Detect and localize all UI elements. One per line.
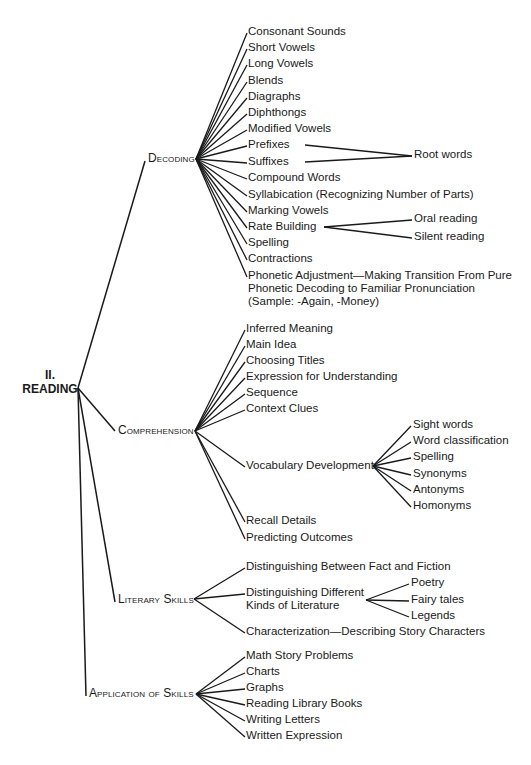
item-vocabulary-development: Vocabulary Development: [246, 459, 374, 472]
subitem-synonyms: Synonyms: [413, 467, 467, 480]
item-choosing-titles: Choosing Titles: [246, 354, 325, 367]
item-context-clues: Context Clues: [246, 402, 318, 415]
connector-line: [196, 694, 245, 737]
subitem-fairy-tales: Fairy tales: [411, 593, 464, 606]
subitem-silent-reading: Silent reading: [414, 230, 484, 243]
connector-line: [195, 346, 245, 431]
item-diphthongs: Diphthongs: [248, 106, 306, 119]
connector-line: [195, 431, 245, 522]
connector-line: [196, 159, 247, 260]
connector-line: [78, 388, 115, 431]
item-syllabication-recognizing-number-of-part: Syllabication (Recognizing Number of Par…: [248, 188, 474, 201]
item-modified-vowels: Modified Vowels: [248, 122, 331, 135]
item-recall-details: Recall Details: [246, 514, 316, 527]
subitem-spelling: Spelling: [413, 450, 454, 463]
connector-line: [196, 49, 247, 159]
connector-line: [196, 159, 247, 244]
connector-line: [78, 388, 86, 696]
item-prefixes: Prefixes: [248, 138, 290, 151]
item-writing-letters: Writing Letters: [246, 713, 320, 726]
category-comprehension: Comprehension: [118, 424, 194, 437]
item-inferred-meaning: Inferred Meaning: [246, 322, 333, 335]
connector-line: [324, 220, 412, 227]
item-expression-for-understanding: Expression for Understanding: [246, 370, 398, 383]
connector-line: [195, 431, 245, 539]
subitem-poetry: Poetry: [411, 576, 444, 589]
connector-line: [305, 145, 412, 156]
subitem-sight-words: Sight words: [413, 418, 473, 431]
item-phonetic-adjustment-making-transition-fr: Phonetic Adjustment—Making Transition Fr…: [248, 269, 512, 308]
item-long-vowels: Long Vowels: [248, 57, 313, 70]
item-main-idea: Main Idea: [246, 338, 297, 351]
item-distinguishing-different: Distinguishing Different Kinds of Litera…: [246, 586, 364, 612]
connector-line: [195, 431, 245, 467]
connector-line: [196, 98, 247, 159]
connector-line: [196, 694, 245, 721]
connector-line: [194, 599, 245, 633]
connector-line: [305, 156, 412, 162]
item-characterization-describing-story-charac: Characterization—Describing Story Charac…: [246, 625, 485, 638]
subitem-oral-reading: Oral reading: [414, 212, 477, 225]
item-consonant-sounds: Consonant Sounds: [248, 25, 346, 38]
root-title: READING: [22, 382, 78, 396]
category-literary-skills: Literary Skills: [118, 593, 194, 606]
connector-line: [366, 600, 409, 601]
item-compound-words: Compound Words: [248, 171, 340, 184]
category-application-of-skills: Application of Skills: [89, 687, 194, 700]
connector-line: [78, 161, 145, 388]
item-math-story-problems: Math Story Problems: [246, 649, 353, 662]
item-predicting-outcomes: Predicting Outcomes: [246, 531, 353, 544]
subitem-antonyms: Antonyms: [413, 483, 464, 496]
item-reading-library-books: Reading Library Books: [246, 697, 362, 710]
connector-line: [366, 584, 409, 600]
subitem-homonyms: Homonyms: [413, 499, 471, 512]
item-suffixes: Suffixes: [248, 155, 289, 168]
item-sequence: Sequence: [246, 386, 298, 399]
item-charts: Charts: [246, 665, 280, 678]
connector-line: [196, 694, 245, 705]
item-spelling: Spelling: [248, 236, 289, 249]
subitem-legends: Legends: [411, 609, 455, 622]
subitem-word-classification: Word classification: [413, 434, 509, 447]
connector-line: [196, 33, 247, 159]
item-short-vowels: Short Vowels: [248, 41, 315, 54]
connector-line: [195, 378, 245, 431]
connector-line: [196, 159, 247, 212]
connector-line: [366, 600, 409, 617]
root-number: II.: [22, 368, 78, 382]
item-diagraphs: Diagraphs: [248, 90, 300, 103]
item-blends: Blends: [248, 74, 283, 87]
item-graphs: Graphs: [246, 681, 284, 694]
item-written-expression: Written Expression: [246, 729, 342, 742]
connector-line: [78, 388, 115, 602]
root-node-reading: II. READING: [22, 368, 78, 396]
connector-line: [324, 227, 412, 238]
item-distinguishing-between-fact-and-fiction: Distinguishing Between Fact and Fiction: [246, 560, 451, 573]
category-decoding: Decoding: [148, 152, 195, 165]
subitem-root-words: Root words: [414, 148, 472, 161]
connector-line: [195, 330, 245, 431]
item-rate-building: Rate Building: [248, 220, 316, 233]
item-marking-vowels: Marking Vowels: [248, 204, 329, 217]
item-contractions: Contractions: [248, 252, 313, 265]
